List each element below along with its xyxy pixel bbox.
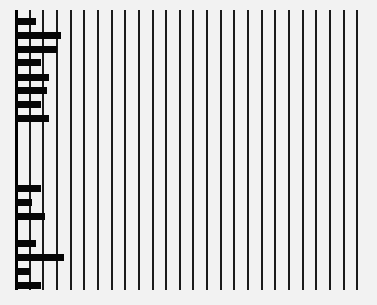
gridline bbox=[111, 10, 113, 290]
gridline bbox=[192, 10, 194, 290]
gridline bbox=[138, 10, 140, 290]
gridline bbox=[220, 10, 222, 290]
gridline bbox=[165, 10, 167, 290]
gridline bbox=[233, 10, 235, 290]
gridline bbox=[206, 10, 208, 290]
gridline bbox=[315, 10, 317, 290]
gridline bbox=[97, 10, 99, 290]
bar bbox=[16, 185, 41, 192]
gridline bbox=[179, 10, 181, 290]
bar bbox=[16, 213, 45, 220]
gridline bbox=[343, 10, 345, 290]
bar bbox=[16, 87, 47, 94]
gridline bbox=[356, 10, 358, 290]
bar-chart bbox=[0, 0, 377, 305]
gridline bbox=[274, 10, 276, 290]
gridline bbox=[261, 10, 263, 290]
bar bbox=[16, 199, 32, 206]
gridline bbox=[247, 10, 249, 290]
bar bbox=[16, 240, 36, 247]
bar bbox=[16, 59, 41, 66]
gridline bbox=[83, 10, 85, 290]
gridline bbox=[152, 10, 154, 290]
gridline bbox=[70, 10, 72, 290]
bar bbox=[16, 74, 49, 81]
bar bbox=[16, 18, 36, 25]
bar bbox=[16, 32, 61, 39]
bar bbox=[16, 101, 41, 108]
bar bbox=[16, 268, 30, 275]
bar bbox=[16, 282, 41, 289]
gridline bbox=[288, 10, 290, 290]
gridline bbox=[124, 10, 126, 290]
bar bbox=[16, 46, 57, 53]
bar bbox=[16, 115, 49, 122]
gridline bbox=[302, 10, 304, 290]
gridline bbox=[329, 10, 331, 290]
bar bbox=[16, 254, 64, 261]
